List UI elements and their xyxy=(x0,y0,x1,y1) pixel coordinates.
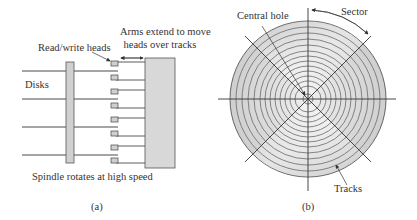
label-tracks: Tracks xyxy=(334,183,362,195)
spindle xyxy=(66,62,74,163)
head xyxy=(111,158,118,163)
label-spindle: Spindle rotates at high speed xyxy=(32,171,153,183)
caption-a: (a) xyxy=(91,201,103,213)
read-write-heads xyxy=(111,61,118,163)
caption-b: (b) xyxy=(302,201,314,213)
head xyxy=(111,61,118,66)
figure-a-side-view xyxy=(22,52,175,168)
label-read-write-heads: Read/write heads xyxy=(38,42,111,54)
label-arms-line2: heads over tracks xyxy=(120,39,200,51)
actuator-block xyxy=(145,58,175,168)
head xyxy=(111,131,118,136)
head xyxy=(111,75,118,80)
figure-b-top-view xyxy=(218,8,396,191)
head xyxy=(111,117,118,122)
arms-and-heads xyxy=(116,62,145,163)
label-disks: Disks xyxy=(25,79,49,91)
label-sector: Sector xyxy=(341,6,368,18)
head xyxy=(111,89,118,94)
head xyxy=(111,145,118,150)
label-central-hole: Central hole xyxy=(237,10,289,22)
head xyxy=(111,103,118,108)
label-arms-line1: Arms extend to move xyxy=(120,26,200,38)
